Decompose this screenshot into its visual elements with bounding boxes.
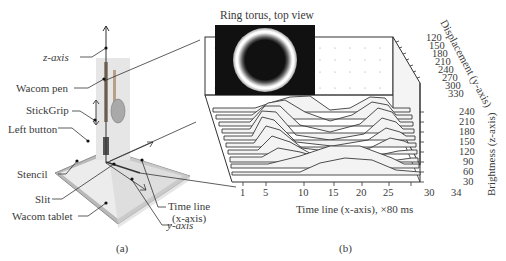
caption-b: (b) [339,243,352,254]
x-tick: 15 [328,188,339,199]
label-stickgrip: StickGrip [26,105,69,116]
y-tick: 330 [448,89,464,100]
x-tick: 5 [263,188,268,199]
label-y-axis: y-axis [167,220,193,231]
label-left-button: Left button [8,124,57,135]
label-wacom-tablet: Wacom tablet [12,211,73,222]
z-tick: 30 [463,177,474,188]
x-tick: 30 [424,188,435,199]
x-tick: 34 [451,188,462,199]
ring-shape [233,28,297,92]
x-tick: 20 [356,188,367,199]
z-axis-title: Brightness (z-axis) [486,113,497,196]
ring-torus-inset [215,25,315,95]
label-slit: Slit [35,194,50,205]
label-z-axis: z-axis [43,52,69,63]
label-stencil: Stencil [17,169,48,180]
label-time-line: Time line [168,201,210,212]
label-wacom-pen: Wacom pen [16,83,68,94]
x-tick: 10 [298,188,309,199]
caption-a: (a) [116,243,128,254]
x-tick: 1 [240,188,245,199]
x-axis-title: Time line (x-axis), ×80 ms [296,204,413,215]
inset-title: Ring torus, top view [220,10,314,22]
x-tick: 25 [383,188,394,199]
waterfall-profiles [213,96,420,175]
